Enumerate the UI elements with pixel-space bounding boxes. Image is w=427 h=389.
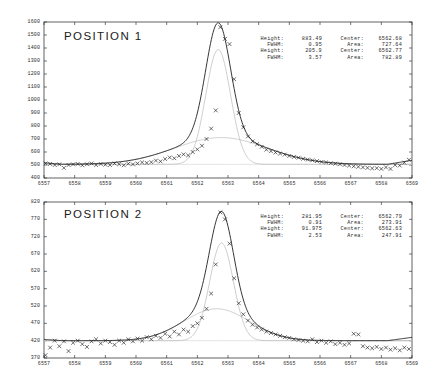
x-axis-tick-label: 6561 xyxy=(155,181,179,187)
stat-p1-left-value: 3.57 xyxy=(284,55,322,61)
stat-p1-right-row: Area:782.89 xyxy=(330,55,402,61)
x-axis-tick-label: 6564 xyxy=(247,361,271,367)
broad-component-curve xyxy=(44,138,412,165)
x-axis-tick-label: 6563 xyxy=(216,361,240,367)
x-axis-tick-label: 6558 xyxy=(63,361,87,367)
y-axis-tick-label: 620 xyxy=(10,268,40,274)
y-axis-tick-label: 770 xyxy=(10,216,40,222)
x-axis-tick-label: 6560 xyxy=(124,361,148,367)
y-axis-tick-label: 720 xyxy=(10,234,40,240)
spectral-fit-figure: POSITION 1 Height:883.49FWHM:0.95Height:… xyxy=(0,0,427,389)
x-axis-tick-label: 6560 xyxy=(124,181,148,187)
x-axis-tick-label: 6558 xyxy=(63,181,87,187)
x-axis-tick-label: 6568 xyxy=(369,181,393,187)
x-axis-tick-label: 6567 xyxy=(339,181,363,187)
y-axis-tick-label: 570 xyxy=(10,286,40,292)
x-axis-tick-label: 6562 xyxy=(185,361,209,367)
stat-p2-right-row: Area:247.91 xyxy=(330,233,402,239)
stat-p2-left-value: 2.53 xyxy=(284,233,322,239)
y-axis-tick-label: 800 xyxy=(10,123,40,129)
y-axis-tick-label: 1200 xyxy=(10,71,40,77)
y-axis-tick-label: 1300 xyxy=(10,58,40,64)
panel-title-position-1: POSITION 1 xyxy=(64,30,143,42)
x-axis-tick-label: 6561 xyxy=(155,361,179,367)
panel-title-position-2: POSITION 2 xyxy=(64,208,143,220)
stats-left-position-2: Height:281.95FWHM:0.91Height:91.975FWHM:… xyxy=(250,214,322,239)
narrow-component-curve xyxy=(44,243,412,341)
x-axis-tick-label: 6569 xyxy=(400,361,424,367)
stat-p1-right-key: Area: xyxy=(330,55,364,61)
y-axis-tick-label: 700 xyxy=(10,136,40,142)
y-axis-tick-label: 820 xyxy=(10,199,40,205)
stat-p1-left-row: FWHM:3.57 xyxy=(250,55,322,61)
x-axis-tick-label: 6565 xyxy=(277,181,301,187)
y-axis-tick-label: 470 xyxy=(10,320,40,326)
stat-p1-left-key: FWHM: xyxy=(250,55,284,61)
stat-p2-right-key: Area: xyxy=(330,233,364,239)
x-axis-tick-label: 6564 xyxy=(247,181,271,187)
x-axis-tick-label: 6562 xyxy=(185,181,209,187)
y-axis-tick-label: 670 xyxy=(10,251,40,257)
y-axis-tick-label: 900 xyxy=(10,110,40,116)
stats-right-position-1: Center:6562.68Area:727.64Center:6562.77A… xyxy=(330,36,402,61)
stat-p2-left-row: FWHM:2.53 xyxy=(250,233,322,239)
x-axis-tick-label: 6567 xyxy=(339,361,363,367)
x-axis-tick-label: 6568 xyxy=(369,361,393,367)
x-axis-tick-label: 6557 xyxy=(32,181,56,187)
stats-right-position-2: Center:6562.79Area:273.91Center:6562.63A… xyxy=(330,214,402,239)
x-axis-tick-label: 6566 xyxy=(308,181,332,187)
y-axis-tick-label: 1400 xyxy=(10,45,40,51)
panel-position-2: POSITION 2 Height:281.95FWHM:0.91Height:… xyxy=(0,194,427,389)
panel-position-1: POSITION 1 Height:883.49FWHM:0.95Height:… xyxy=(0,0,427,195)
x-axis-tick-label: 6566 xyxy=(308,361,332,367)
x-axis-tick-label: 6559 xyxy=(93,361,117,367)
y-axis-tick-label: 1000 xyxy=(10,97,40,103)
stat-p1-right-value: 782.89 xyxy=(364,55,402,61)
stats-left-position-1: Height:883.49FWHM:0.95Height:205.9FWHM:3… xyxy=(250,36,322,61)
y-axis-tick-label: 600 xyxy=(10,149,40,155)
x-axis-tick-label: 6557 xyxy=(32,361,56,367)
x-axis-tick-label: 6569 xyxy=(400,181,424,187)
stat-p2-right-value: 247.91 xyxy=(364,233,402,239)
y-axis-tick-label: 520 xyxy=(10,303,40,309)
y-axis-tick-label: 1500 xyxy=(10,32,40,38)
x-axis-tick-label: 6565 xyxy=(277,361,301,367)
x-axis-tick-label: 6559 xyxy=(93,181,117,187)
y-axis-tick-label: 500 xyxy=(10,162,40,168)
stat-p2-left-key: FWHM: xyxy=(250,233,284,239)
x-axis-tick-label: 6563 xyxy=(216,181,240,187)
y-axis-tick-label: 1600 xyxy=(10,19,40,25)
y-axis-tick-label: 420 xyxy=(10,338,40,344)
y-axis-tick-label: 1100 xyxy=(10,84,40,90)
narrow-component-curve xyxy=(44,50,412,165)
